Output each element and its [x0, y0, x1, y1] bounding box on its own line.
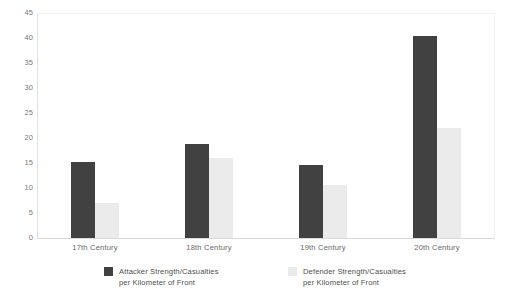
y-axis-tick-label: 40: [0, 34, 33, 42]
x-axis-tick-label: 17th Century: [72, 243, 117, 253]
legend-item-attacker: Attacker Strength/Casualties per Kilomet…: [104, 266, 219, 288]
legend-label-attacker: Attacker Strength/Casualties per Kilomet…: [119, 266, 219, 288]
legend-label-defender: Defender Strength/Casualties per Kilomet…: [303, 266, 406, 288]
legend-item-defender: Defender Strength/Casualties per Kilomet…: [288, 266, 406, 288]
y-axis-tick-label: 15: [0, 159, 33, 167]
y-axis-tick-label: 10: [0, 184, 33, 192]
bar-defender[interactable]: [209, 158, 233, 238]
bar-attacker[interactable]: [299, 165, 323, 238]
bar-attacker[interactable]: [185, 144, 209, 238]
chart-legend: Attacker Strength/Casualties per Kilomet…: [0, 266, 507, 300]
bar-group: [38, 13, 152, 238]
legend-swatch-defender-icon: [288, 267, 297, 276]
x-axis-tick-label: 18th Century: [186, 243, 231, 253]
y-axis-tick-label: 5: [0, 209, 33, 217]
y-axis-tick-label: 20: [0, 134, 33, 142]
bars-container: [38, 13, 494, 238]
bar-attacker[interactable]: [71, 162, 95, 238]
x-axis-tick-label: 20th Century: [414, 243, 459, 253]
bar-attacker[interactable]: [413, 36, 437, 239]
bar-group: [266, 13, 380, 238]
y-axis-tick-label: 35: [0, 59, 33, 67]
bar-defender[interactable]: [323, 185, 347, 238]
y-axis: 051015202530354045: [0, 13, 33, 239]
y-axis-tick-label: 0: [0, 234, 33, 242]
x-axis-tick-label: 19th Century: [300, 243, 345, 253]
x-axis-category-labels: 17th Century18th Century19th Century20th…: [38, 243, 494, 257]
bar-chart: 051015202530354045 17th Century18th Cent…: [0, 0, 507, 306]
bar-group: [380, 13, 494, 238]
y-axis-tick-label: 45: [0, 9, 33, 17]
legend-swatch-attacker-icon: [104, 267, 113, 276]
bar-group: [152, 13, 266, 238]
bar-defender[interactable]: [437, 128, 461, 238]
bar-defender[interactable]: [95, 203, 119, 238]
y-axis-tick-label: 30: [0, 84, 33, 92]
y-axis-tick-label: 25: [0, 109, 33, 117]
